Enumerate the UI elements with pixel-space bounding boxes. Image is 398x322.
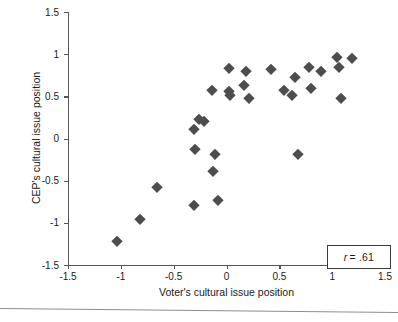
x-tick-label: -1 <box>104 271 138 282</box>
data-point <box>210 148 221 159</box>
data-point <box>347 52 358 63</box>
data-point <box>223 62 234 73</box>
data-point <box>243 93 254 104</box>
data-point <box>207 166 218 177</box>
data-point <box>304 62 315 73</box>
plot-area <box>68 12 385 265</box>
data-point <box>151 182 162 193</box>
data-point <box>206 84 217 95</box>
x-tick <box>227 265 228 269</box>
y-tick-label: 1.5 <box>25 7 59 18</box>
x-tick-label: -1.5 <box>51 271 85 282</box>
x-tick <box>121 265 122 269</box>
data-point <box>240 66 251 77</box>
x-tick <box>279 265 280 269</box>
x-tick-label: 0 <box>210 271 244 282</box>
x-tick-label: 1 <box>315 271 349 282</box>
data-point <box>266 63 277 74</box>
correlation-annotation: r = .61 <box>327 245 391 269</box>
data-point <box>135 214 146 225</box>
correlation-symbol: r <box>344 251 348 263</box>
page-edge-line <box>0 307 398 315</box>
x-axis-title: Voter's cultural issue position <box>68 286 385 298</box>
data-point <box>239 79 250 90</box>
correlation-value: = .61 <box>350 251 375 263</box>
x-tick <box>174 265 175 269</box>
data-point <box>290 72 301 83</box>
x-tick-label: 0.5 <box>262 271 296 282</box>
data-point <box>293 148 304 159</box>
data-point <box>213 195 224 206</box>
data-point <box>332 51 343 62</box>
y-axis-title: CEP's cultural issue position <box>30 31 42 246</box>
data-point <box>335 93 346 104</box>
x-tick-label: 1.5 <box>368 271 398 282</box>
y-tick-label: -1.5 <box>25 260 59 271</box>
data-point <box>333 62 344 73</box>
data-point <box>111 235 122 246</box>
data-point <box>189 144 200 155</box>
data-point <box>188 200 199 211</box>
scatter-plot-figure: 1.510.50-0.5-1-1.5 -1.5-1-0.500.511.5 CE… <box>0 0 398 322</box>
x-tick-label: -0.5 <box>157 271 191 282</box>
data-point <box>306 83 317 94</box>
data-point <box>315 66 326 77</box>
x-tick <box>68 265 69 269</box>
data-point <box>188 124 199 135</box>
